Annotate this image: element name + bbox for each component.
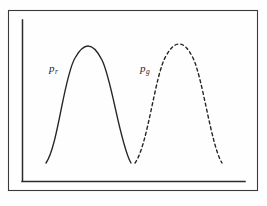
- label-pr-base: p: [49, 62, 55, 74]
- label-pr-subscript: r: [55, 67, 58, 76]
- label-pg-subscript: g: [146, 67, 150, 76]
- label-pg-base: p: [140, 62, 146, 74]
- curve-label-p-generated: pg: [140, 63, 150, 76]
- figure-container: pr pg: [0, 0, 267, 206]
- curve-label-p-real: pr: [49, 63, 58, 76]
- distribution-plot: [0, 0, 267, 206]
- figure-background: [0, 0, 267, 206]
